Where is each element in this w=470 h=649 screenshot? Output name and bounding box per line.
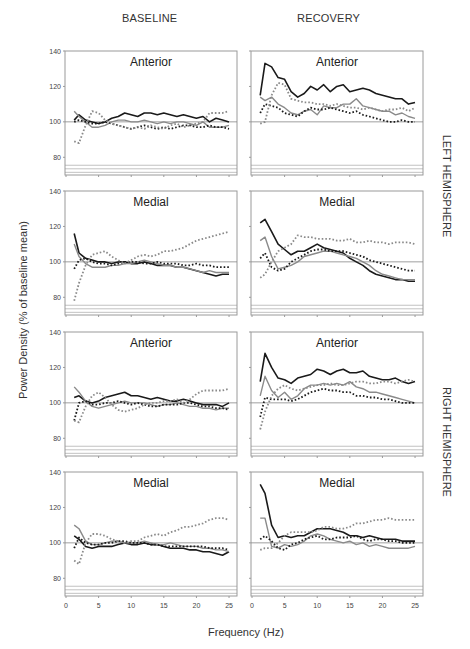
panel-title: Anterior xyxy=(130,336,172,350)
panel-right-medial-baseline: 801001201400510152025Medial xyxy=(49,469,237,610)
y-tick-label: 120 xyxy=(49,223,61,230)
series-gray-solid xyxy=(74,525,229,552)
y-tick-label: 80 xyxy=(53,575,61,582)
y-tick-label: 100 xyxy=(49,539,61,546)
panel-title: Medial xyxy=(319,476,354,490)
series-black-solid xyxy=(260,353,415,383)
panel-right-anterior-baseline: 80100120140Anterior xyxy=(49,329,237,459)
y-tick-label: 100 xyxy=(49,258,61,265)
series-black-solid xyxy=(260,219,415,281)
series-gray-dotted xyxy=(260,380,415,430)
y-tick-label: 80 xyxy=(53,435,61,442)
y-tick-label: 120 xyxy=(49,504,61,511)
panel-title: Anterior xyxy=(316,55,358,69)
series-gray-dotted xyxy=(74,232,229,301)
series-gray-dotted xyxy=(260,235,415,277)
y-tick-label: 80 xyxy=(53,294,61,301)
x-tick-label: 20 xyxy=(193,602,201,609)
panel-title: Anterior xyxy=(316,336,358,350)
series-black-solid xyxy=(74,234,229,277)
y-tick-label: 100 xyxy=(49,399,61,406)
y-tick-label: 120 xyxy=(49,364,61,371)
panel-left-medial-recovery: Medial xyxy=(249,191,423,317)
x-tick-label: 0 xyxy=(64,602,68,609)
y-tick-label: 120 xyxy=(49,83,61,90)
x-tick-label: 10 xyxy=(127,602,135,609)
y-tick-label: 140 xyxy=(49,469,61,476)
panel-right-anterior-recovery: Anterior xyxy=(249,332,423,458)
x-tick-label: 20 xyxy=(379,602,387,609)
series-gray-dotted xyxy=(74,518,229,564)
series-black-solid xyxy=(74,536,229,556)
x-tick-label: 0 xyxy=(250,602,254,609)
series-gray-dotted xyxy=(260,83,415,124)
series-gray-solid xyxy=(74,244,229,272)
y-tick-label: 140 xyxy=(49,188,61,195)
x-tick-label: 5 xyxy=(97,602,101,609)
x-tick-label: 15 xyxy=(160,602,168,609)
panel-title: Medial xyxy=(319,195,354,209)
x-tick-label: 10 xyxy=(313,602,321,609)
x-tick-label: 15 xyxy=(346,602,354,609)
series-black-solid xyxy=(260,484,415,541)
x-tick-label: 25 xyxy=(225,602,233,609)
y-tick-label: 100 xyxy=(49,118,61,125)
panel-title: Medial xyxy=(133,195,168,209)
power-density-chart: 80100120140AnteriorAnterior80100120140Me… xyxy=(0,0,470,649)
series-gray-solid xyxy=(260,97,415,118)
panel-title: Anterior xyxy=(130,55,172,69)
panel-title: Medial xyxy=(133,476,168,490)
panel-left-anterior-baseline: 80100120140Anterior xyxy=(49,48,237,178)
panel-left-anterior-recovery: Anterior xyxy=(249,51,423,177)
panel-right-medial-recovery: 0510152025Medial xyxy=(249,472,423,609)
y-tick-label: 140 xyxy=(49,48,61,55)
x-tick-label: 25 xyxy=(411,602,419,609)
x-tick-label: 5 xyxy=(283,602,287,609)
y-tick-label: 80 xyxy=(53,154,61,161)
panel-left-medial-baseline: 80100120140Medial xyxy=(49,188,237,318)
y-tick-label: 140 xyxy=(49,329,61,336)
series-gray-solid xyxy=(260,518,415,548)
